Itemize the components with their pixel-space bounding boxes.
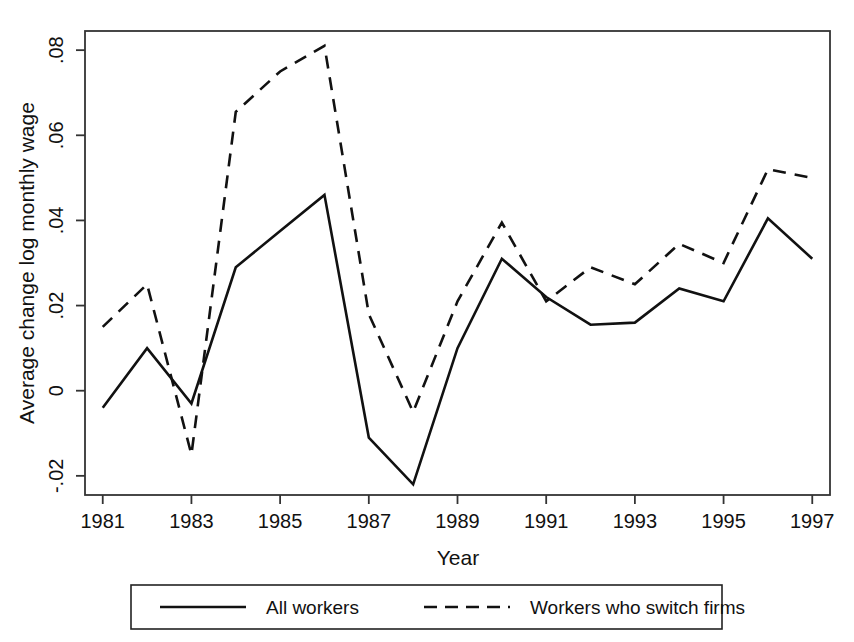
x-axis-title: Year	[437, 546, 479, 569]
y-tick-label: .06	[45, 121, 67, 149]
y-tick-label: .04	[45, 207, 67, 235]
y-tick-label: 0	[45, 385, 67, 396]
x-tick-label: 1985	[258, 510, 303, 532]
x-tick-label: 1989	[435, 510, 480, 532]
x-tick-label: 1981	[80, 510, 125, 532]
legend-label-switchers: Workers who switch firms	[530, 597, 745, 618]
x-tick-label: 1995	[701, 510, 746, 532]
x-tick-label: 1993	[613, 510, 658, 532]
x-tick-label: 1991	[524, 510, 569, 532]
y-tick-label: .08	[45, 36, 67, 64]
chart-background	[0, 0, 854, 642]
x-tick-label: 1997	[790, 510, 835, 532]
y-tick-label: -.02	[45, 459, 67, 493]
y-axis-title: Average change log monthly wage	[15, 102, 38, 424]
wage-change-line-chart: -.020.02.04.06.08 1981198319851987198919…	[0, 0, 854, 642]
legend-label-all-workers: All workers	[266, 597, 359, 618]
x-tick-label: 1983	[169, 510, 214, 532]
x-tick-label: 1987	[347, 510, 392, 532]
y-tick-label: .02	[45, 292, 67, 320]
